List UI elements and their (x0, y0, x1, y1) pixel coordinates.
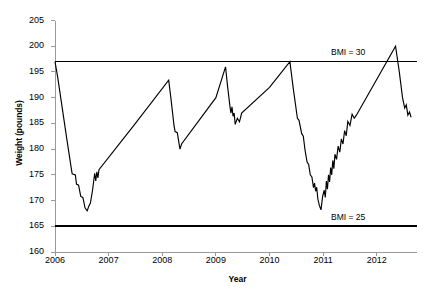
y-tick-label: 160 (16, 247, 44, 256)
y-tick-label: 170 (16, 196, 44, 205)
y-tick-label: 205 (16, 16, 44, 25)
x-tick-label: 2006 (32, 256, 78, 265)
y-tick-label: 175 (16, 170, 44, 179)
x-tick-label: 2009 (193, 256, 239, 265)
y-tick-label: 185 (16, 118, 44, 127)
x-tick-label: 2008 (139, 256, 185, 265)
data-series (55, 46, 411, 211)
weight-chart: Weight (pounds) Year 1601651701751801851… (0, 0, 430, 293)
x-tick-label: 2007 (86, 256, 132, 265)
y-tick-label: 190 (16, 93, 44, 102)
plot-area (0, 0, 430, 293)
y-tick-label: 195 (16, 67, 44, 76)
x-tick-label: 2011 (300, 256, 346, 265)
y-tick-label: 180 (16, 144, 44, 153)
x-axis-title: Year (55, 274, 420, 284)
x-tick-label: 2012 (354, 256, 400, 265)
y-tick-label: 200 (16, 41, 44, 50)
y-tick-label: 165 (16, 221, 44, 230)
reference-line-label: BMI = 30 (331, 48, 365, 57)
reference-line-label: BMI = 25 (331, 213, 365, 222)
weight-line (55, 46, 411, 211)
x-tick-label: 2010 (247, 256, 293, 265)
reference-lines (55, 62, 417, 227)
